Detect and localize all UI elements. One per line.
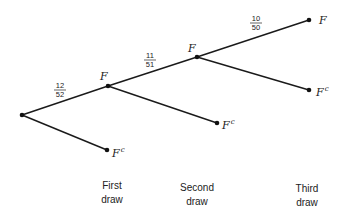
root-node xyxy=(20,113,25,118)
fraction-second-branch: 11 51 xyxy=(144,51,156,69)
second-Fc-label: Fc xyxy=(221,118,235,132)
second-F-node xyxy=(195,55,200,60)
column-label-first-draw: First draw xyxy=(101,180,123,205)
column-label-third-draw: Third draw xyxy=(296,183,319,208)
first-F-node xyxy=(106,84,111,89)
svg-text:draw: draw xyxy=(101,194,123,205)
fraction-numerator: 12 xyxy=(56,81,64,90)
fraction-first-branch: 12 52 xyxy=(54,81,66,99)
fraction-denominator: 52 xyxy=(56,90,64,99)
fraction-numerator: 10 xyxy=(252,14,260,23)
edge-first-F-to-second-Fc xyxy=(108,86,217,123)
edge-second-F-to-third-Fc xyxy=(197,57,309,90)
fraction-numerator: 11 xyxy=(146,51,154,60)
svg-text:draw: draw xyxy=(296,197,318,208)
first-Fc-node xyxy=(105,148,110,153)
fraction-third-branch: 10 50 xyxy=(250,14,262,32)
fraction-denominator: 51 xyxy=(146,60,154,69)
second-F-label: F xyxy=(187,42,196,55)
third-F-node xyxy=(307,18,312,23)
first-Fc-label: Fc xyxy=(111,146,125,160)
fraction-denominator: 50 xyxy=(252,23,260,32)
third-Fc-label: Fc xyxy=(315,85,329,99)
svg-text:Second: Second xyxy=(180,182,214,193)
svg-text:First: First xyxy=(102,180,122,191)
edge-root-to-first-Fc xyxy=(22,115,107,150)
tree-canvas: F F F Fc Fc Fc 12 52 11 51 10 50 First d… xyxy=(0,0,350,219)
column-label-second-draw: Second draw xyxy=(180,182,214,207)
svg-text:draw: draw xyxy=(186,196,208,207)
third-F-label: F xyxy=(318,14,327,27)
third-Fc-node xyxy=(307,88,312,93)
probability-tree-diagram: F F F Fc Fc Fc 12 52 11 51 10 50 First d… xyxy=(0,0,350,219)
first-F-label: F xyxy=(99,70,108,83)
svg-text:Third: Third xyxy=(296,183,319,194)
second-Fc-node xyxy=(215,121,220,126)
